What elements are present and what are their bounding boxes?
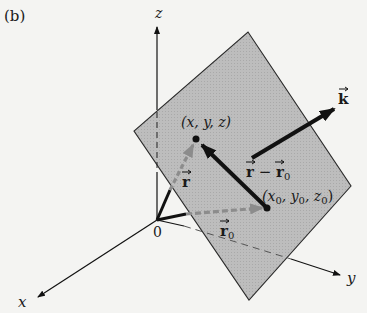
origin-label: 0 xyxy=(153,224,162,240)
figure-canvas: (b) z x y 0 (x, y, z) (x0, y0, z0) r r0 … xyxy=(0,0,367,313)
r0-vector-base xyxy=(157,214,186,220)
y-axis-label: y xyxy=(346,269,356,287)
point-xyz-label: (x, y, z) xyxy=(181,114,231,130)
svg-text:k: k xyxy=(338,90,349,108)
r-vector-base xyxy=(157,190,170,220)
z-axis-label: z xyxy=(154,5,163,21)
point-x0y0z0 xyxy=(264,205,271,212)
x-axis-label: x xyxy=(18,293,27,311)
x-axis xyxy=(38,220,157,297)
r-minus-r0-label: r − r0 xyxy=(246,160,290,182)
k-vector-label: k xyxy=(338,87,349,108)
panel-label: (b) xyxy=(4,7,25,25)
svg-text:r − r0: r − r0 xyxy=(246,163,290,182)
svg-text:r: r xyxy=(182,173,191,191)
r-vector-label: r xyxy=(182,170,191,191)
plane xyxy=(134,32,351,300)
point-xyz xyxy=(193,136,200,143)
